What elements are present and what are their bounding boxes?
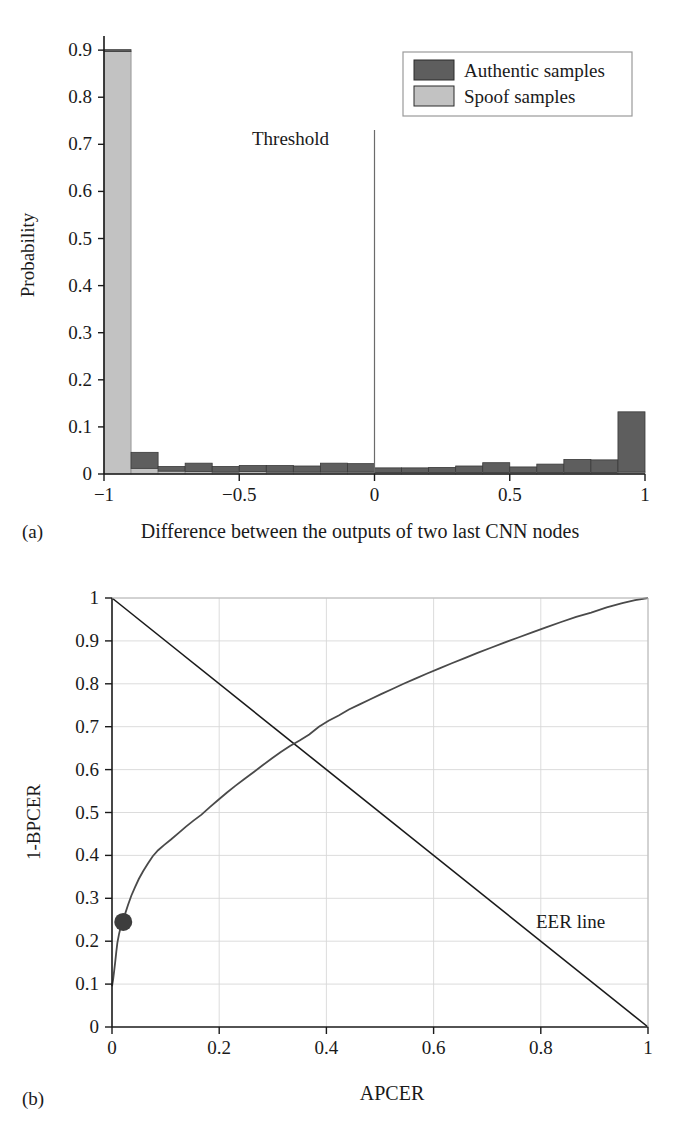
threshold-label: Threshold bbox=[252, 128, 330, 149]
y-axis-title-b: 1-BPCER bbox=[23, 784, 44, 860]
x-tick-label-a: 1 bbox=[640, 484, 650, 505]
histogram-bar-authentic bbox=[239, 466, 266, 472]
histogram-bar-authentic bbox=[104, 50, 131, 52]
histogram-bar-authentic bbox=[347, 464, 374, 472]
y-tick-label-b: 0.9 bbox=[75, 630, 99, 651]
histogram-bar-authentic bbox=[402, 468, 429, 473]
y-tick-label-a: 0.7 bbox=[68, 133, 92, 154]
histogram-bar-authentic bbox=[429, 467, 456, 472]
y-tick-label-a: 0.4 bbox=[68, 275, 92, 296]
x-tick-label-a: 0.5 bbox=[498, 484, 522, 505]
histogram-bar-authentic bbox=[510, 467, 537, 473]
x-tick-label-b: 0.2 bbox=[207, 1037, 231, 1058]
histogram-bar-authentic bbox=[375, 468, 402, 473]
histogram-bar-authentic bbox=[158, 466, 185, 471]
y-tick-label-a: 0.1 bbox=[68, 416, 92, 437]
roc-svg: 00.10.20.30.40.50.60.70.80.91 00.20.40.6… bbox=[0, 560, 684, 1137]
y-tick-label-b: 0.5 bbox=[75, 802, 99, 823]
histogram-bar-authentic bbox=[320, 463, 347, 472]
y-tick-label-b: 0.7 bbox=[75, 716, 99, 737]
histogram-bar-authentic bbox=[131, 452, 158, 468]
histogram-bar-authentic bbox=[266, 466, 293, 473]
histogram-bar-spoof bbox=[104, 52, 131, 474]
x-tick-label-b: 0.6 bbox=[422, 1037, 446, 1058]
subcaption-b: (b) bbox=[22, 1088, 44, 1110]
figure-container: 00.10.20.30.40.50.60.70.80.9 −1−0.500.51… bbox=[0, 0, 684, 1137]
y-axis-title-a: Probability bbox=[17, 212, 38, 297]
y-tick-label-b: 0.3 bbox=[75, 887, 99, 908]
y-tick-label-a: 0.5 bbox=[68, 228, 92, 249]
operating-point-marker bbox=[114, 913, 132, 931]
subcaption-a: (a) bbox=[22, 521, 43, 543]
y-tick-label-b: 0 bbox=[90, 1016, 100, 1037]
y-tick-label-b: 0.4 bbox=[75, 844, 99, 865]
panel-b-roc: 00.10.20.30.40.50.60.70.80.91 00.20.40.6… bbox=[0, 560, 684, 1137]
histogram-bar-spoof bbox=[131, 468, 158, 474]
histogram-bar-authentic bbox=[185, 463, 212, 471]
y-tick-label-a: 0.8 bbox=[68, 86, 92, 107]
x-tick-label-b: 1 bbox=[643, 1037, 653, 1058]
histogram-bar-authentic bbox=[293, 466, 320, 472]
eer-line-label: EER line bbox=[536, 911, 605, 932]
legend-swatch-authentic bbox=[414, 60, 454, 80]
x-tick-label-a: −1 bbox=[94, 484, 114, 505]
histogram-bar-authentic bbox=[456, 466, 483, 473]
y-tick-label-a: 0.6 bbox=[68, 180, 92, 201]
x-tick-label-b: 0 bbox=[107, 1037, 117, 1058]
legend-label-spoof: Spoof samples bbox=[464, 86, 575, 107]
histogram-bar-authentic bbox=[564, 459, 591, 472]
histogram-bar-authentic bbox=[591, 460, 618, 473]
histogram-bar-authentic bbox=[618, 412, 645, 472]
histogram-bar-authentic bbox=[483, 463, 510, 473]
y-tick-label-a: 0.3 bbox=[68, 322, 92, 343]
histogram-svg: 00.10.20.30.40.50.60.70.80.9 −1−0.500.51… bbox=[0, 0, 684, 560]
x-tick-label-a: −0.5 bbox=[222, 484, 256, 505]
legend-label-authentic: Authentic samples bbox=[464, 60, 605, 81]
legend-swatch-spoof bbox=[414, 86, 454, 106]
x-axis-title-b: APCER bbox=[360, 1082, 425, 1104]
y-tick-label-a: 0.9 bbox=[68, 39, 92, 60]
panel-b-background bbox=[0, 560, 684, 1137]
histogram-bar-authentic bbox=[212, 466, 239, 472]
panel-a-histogram: 00.10.20.30.40.50.60.70.80.9 −1−0.500.51… bbox=[0, 0, 684, 560]
histogram-bar-authentic bbox=[537, 464, 564, 472]
legend-a: Authentic samples Spoof samples bbox=[403, 52, 632, 116]
y-tick-label-b: 0.6 bbox=[75, 759, 99, 780]
x-axis-title-a: Difference between the outputs of two la… bbox=[141, 520, 580, 543]
x-tick-label-a: 0 bbox=[370, 484, 380, 505]
y-tick-label-b: 0.8 bbox=[75, 673, 99, 694]
y-tick-label-b: 0.1 bbox=[75, 973, 99, 994]
y-tick-label-a: 0.2 bbox=[68, 369, 92, 390]
x-tick-label-b: 0.4 bbox=[315, 1037, 339, 1058]
y-tick-label-a: 0 bbox=[83, 463, 93, 484]
y-tick-label-b: 0.2 bbox=[75, 930, 99, 951]
x-tick-label-b: 0.8 bbox=[529, 1037, 553, 1058]
y-tick-label-b: 1 bbox=[90, 587, 100, 608]
